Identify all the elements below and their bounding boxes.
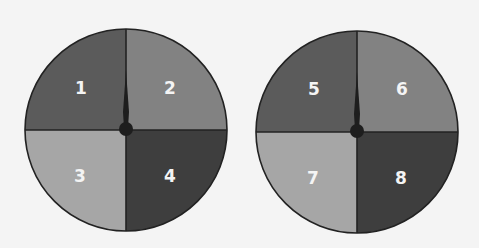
sector-label-1: 1 [75, 78, 87, 98]
spinner-hub [350, 124, 364, 138]
sector-label-5: 5 [308, 79, 320, 99]
sector-8 [357, 132, 458, 233]
sector-label-7: 7 [307, 168, 319, 188]
sector-5 [256, 31, 357, 132]
sector-label-3: 3 [74, 166, 86, 186]
sector-label-4: 4 [164, 166, 176, 186]
spinners-figure: 1 2 3 4 5 6 7 8 [0, 0, 479, 248]
sector-label-6: 6 [396, 79, 408, 99]
sector-2 [126, 29, 227, 130]
sector-label-2: 2 [164, 78, 176, 98]
spinner-right: 5 6 7 8 [256, 31, 458, 233]
sector-4 [126, 130, 227, 231]
spinner-left: 1 2 3 4 [25, 29, 227, 231]
sector-label-8: 8 [395, 168, 407, 188]
spinner-hub [119, 122, 133, 136]
